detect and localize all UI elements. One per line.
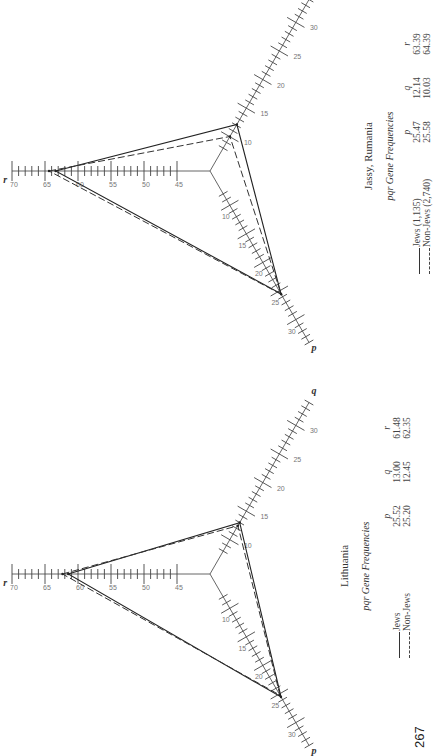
minor-tick <box>229 531 238 536</box>
minor-tick <box>295 14 304 19</box>
tick-label: 45 <box>175 181 183 188</box>
minor-tick <box>219 146 228 151</box>
minor-tick <box>282 703 291 708</box>
series-triangle-jews <box>68 523 281 697</box>
column-header-r: r <box>382 406 392 450</box>
tick-label: 70 <box>10 181 18 188</box>
tick-label: 10 <box>244 139 252 146</box>
minor-tick <box>268 463 277 468</box>
minor-tick <box>252 249 261 254</box>
minor-tick <box>282 37 291 42</box>
minor-tick <box>298 411 307 416</box>
value-p: 25.58 <box>422 110 432 154</box>
tick-label: 15 <box>238 242 246 249</box>
chart-title: Jassy, Rumania <box>362 56 374 256</box>
major-tick <box>287 17 304 27</box>
major-tick <box>221 535 238 545</box>
major-tick <box>238 103 255 113</box>
minor-tick <box>282 440 291 445</box>
tick-label: 15 <box>238 645 246 652</box>
series-name: Jews <box>392 613 402 631</box>
axis-name-r: r <box>3 174 7 185</box>
major-tick <box>238 632 255 642</box>
value-q: 13.00 <box>392 450 402 494</box>
major-tick <box>254 660 271 670</box>
minor-tick <box>239 514 248 519</box>
minor-tick <box>285 31 294 36</box>
minor-tick <box>249 497 258 502</box>
column-header-r: r <box>402 22 412 66</box>
data-point <box>237 525 239 527</box>
minor-tick <box>265 674 274 679</box>
major-tick <box>254 478 271 488</box>
minor-tick <box>272 457 281 462</box>
series-name: Non-Jews (2,740) <box>422 179 432 247</box>
tick-label: 65 <box>43 181 51 188</box>
minor-tick <box>252 652 261 657</box>
series-name: Jews (1,135) <box>412 198 422 247</box>
axis-name-p: p <box>310 342 316 353</box>
minor-tick <box>265 271 274 276</box>
chart-subtitle: pqr Gene Frequencies <box>384 56 395 256</box>
lithuania-legend-table: p q r Jews 25.52 13.00 61.48 Non-Jews 25… <box>382 406 412 658</box>
minor-tick <box>222 600 231 605</box>
data-point <box>61 573 63 575</box>
minor-tick <box>301 406 310 411</box>
minor-tick <box>222 543 231 548</box>
minor-tick <box>278 294 287 299</box>
legend-row: Jews 25.52 13.00 61.48 <box>392 406 402 658</box>
minor-tick <box>298 329 307 334</box>
legend-row: Jews (1,135) 25.47 12.14 63.39 <box>412 22 422 274</box>
tick-label: 30 <box>310 24 318 31</box>
major-tick <box>271 449 288 459</box>
legend-row: Non-Jews 25.20 12.45 62.35 <box>402 406 412 658</box>
chart-title: Lithuania <box>338 466 350 666</box>
minor-tick <box>239 629 248 634</box>
data-point <box>236 123 238 125</box>
minor-tick <box>229 128 238 133</box>
minor-tick <box>235 623 244 628</box>
minor-tick <box>245 237 254 242</box>
minor-tick <box>232 214 241 219</box>
major-tick <box>221 603 238 613</box>
tick-label: 45 <box>175 584 183 591</box>
value-q: 12.14 <box>412 66 422 110</box>
chart-subtitle: pqr Gene Frequencies <box>360 466 371 666</box>
minor-tick <box>278 446 287 451</box>
minor-tick <box>235 220 244 225</box>
tick-label: 30 <box>288 328 296 335</box>
minor-tick <box>219 191 228 196</box>
dashed-line-swatch <box>409 632 410 658</box>
tick-label: 20 <box>277 485 285 492</box>
minor-tick <box>295 726 304 731</box>
minor-tick <box>249 243 258 248</box>
minor-tick <box>219 594 228 599</box>
major-tick <box>271 46 288 56</box>
tick-label: 25 <box>293 456 301 463</box>
legend-row: Non-Jews (2,740) 25.58 10.03 64.39 <box>422 22 432 274</box>
minor-tick <box>222 197 231 202</box>
solid-line-swatch <box>419 248 420 274</box>
minor-tick <box>245 100 254 105</box>
minor-tick <box>288 429 297 434</box>
jassy-legend-table: p q r Jews (1,135) 25.47 12.14 63.39 Non… <box>402 22 432 274</box>
tick-label: 55 <box>109 584 117 591</box>
minor-tick <box>268 680 277 685</box>
minor-tick <box>288 26 297 31</box>
major-tick <box>254 257 271 267</box>
value-r: 63.39 <box>412 22 422 66</box>
minor-tick <box>278 43 287 48</box>
value-p: 25.20 <box>402 494 412 538</box>
column-header-p: p <box>402 110 412 154</box>
minor-tick <box>229 612 238 617</box>
tick-label: 20 <box>255 673 263 680</box>
minor-tick <box>255 254 264 259</box>
tick-label: 10 <box>222 616 230 623</box>
tick-label: 20 <box>255 270 263 277</box>
minor-tick <box>285 709 294 714</box>
minor-tick <box>239 226 248 231</box>
minor-tick <box>239 111 248 116</box>
tick-label: 25 <box>271 702 279 709</box>
data-point <box>48 170 50 172</box>
major-tick <box>238 506 255 516</box>
